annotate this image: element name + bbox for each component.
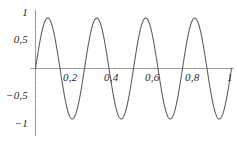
y-tick-label-1: 1 <box>12 7 28 18</box>
plot-area <box>0 0 237 142</box>
y-tick-label-0-5: 0,5 <box>4 34 28 45</box>
x-tick-label-0-8: 0,8 <box>185 72 199 83</box>
x-tick-label-0-2: 0,2 <box>63 72 77 83</box>
x-tick-label-0-4: 0,4 <box>104 72 118 83</box>
y-tick-label-neg-1: −1 <box>4 118 28 129</box>
sine-wave-chart: 1 0,5 −0,5 −1 0,2 0,4 0,6 0,8 1 <box>0 0 237 142</box>
y-tick-label-neg-0-5: −0,5 <box>0 90 28 101</box>
x-tick-label-1: 1 <box>227 72 233 83</box>
x-tick-label-0-6: 0,6 <box>145 72 159 83</box>
